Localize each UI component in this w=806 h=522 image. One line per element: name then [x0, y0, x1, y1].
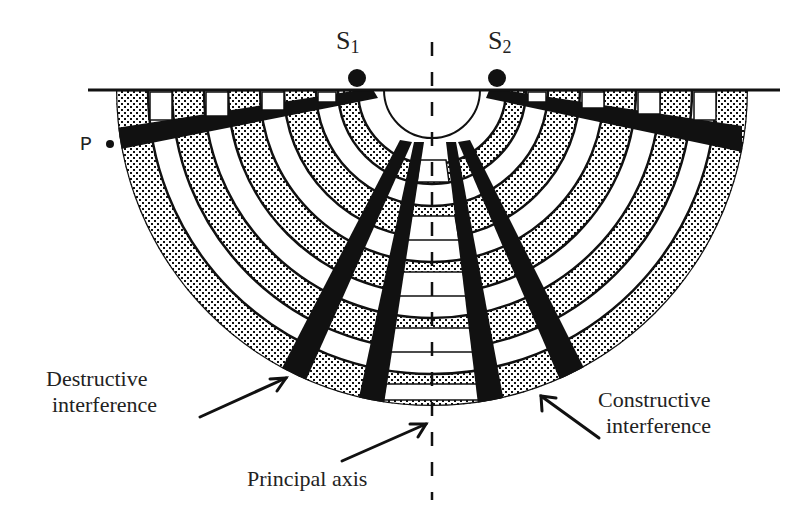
interference-diagram: [0, 0, 806, 522]
constructive-label-line1: Constructive: [598, 387, 711, 413]
source-s2-dot: [488, 69, 506, 87]
principal-axis-arrow: [342, 424, 426, 461]
source-s2-label: S2: [488, 28, 511, 60]
constructive-label: Constructive interference: [598, 387, 711, 439]
point-p-dot: [106, 140, 114, 148]
source-s1-subscript: 1: [350, 37, 359, 57]
source-s1-letter: S: [336, 26, 350, 55]
point-p-label: P: [80, 132, 92, 158]
destructive-arrow: [200, 378, 286, 417]
source-s1-label: S1: [336, 28, 359, 60]
constructive-arrow: [541, 396, 599, 438]
source-s1-dot: [348, 69, 366, 87]
destructive-label-line1: Destructive: [46, 366, 157, 392]
destructive-label: Destructive interference: [46, 366, 157, 418]
source-s2-subscript: 2: [502, 37, 511, 57]
destructive-label-line2: interference: [46, 392, 157, 418]
principal-axis-label: Principal axis: [247, 466, 367, 492]
source-s2-letter: S: [488, 26, 502, 55]
constructive-label-line2: interference: [598, 413, 711, 439]
